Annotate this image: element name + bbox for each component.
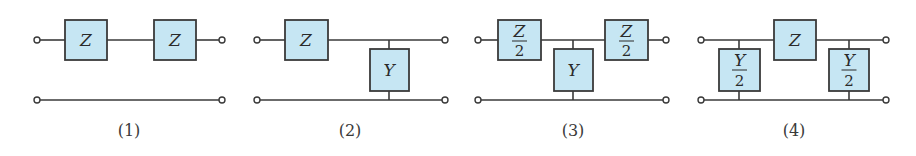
caption-2: (2) [339,121,362,140]
caption-3: (3) [562,121,585,140]
svg-text:2: 2 [735,72,745,90]
terminal-top-right [219,37,225,43]
admittance-box-y: Y [370,49,409,91]
svg-text:Z: Z [299,30,313,50]
circuit-4: Y 2 Z Y 2 (4) [698,20,889,140]
terminal-top-left [475,37,481,43]
svg-text:Z: Z [620,21,634,41]
impedance-box-z: Z [285,20,328,60]
terminal-top-left [698,37,704,43]
circuit-3: Z 2 Y Z 2 (3) [475,20,669,140]
terminal-bottom-right [883,97,889,103]
admittance-box-y: Y [554,49,593,91]
svg-text:2: 2 [844,72,854,90]
svg-text:Z: Z [168,30,182,50]
terminal-top-right [442,37,448,43]
impedance-box-z: Z [154,20,196,60]
terminal-bottom-right [442,97,448,103]
svg-text:2: 2 [622,42,632,60]
terminal-bottom-left [698,97,704,103]
circuit-2: Z Y (2) [254,20,448,140]
terminal-top-right [663,37,669,43]
impedance-box-z-half: Z 2 [605,20,648,60]
impedance-box-z: Z [774,20,816,60]
svg-text:Y: Y [383,60,396,80]
svg-text:Y: Y [843,50,856,70]
impedance-box-z: Z [65,20,107,60]
svg-text:Z: Z [788,30,802,50]
terminal-top-left [34,37,40,43]
caption-1: (1) [118,121,141,140]
svg-text:2: 2 [515,42,525,60]
admittance-box-y-half: Y 2 [719,49,760,91]
terminal-top-right [883,37,889,43]
circuit-1: Z Z (1) [34,20,225,140]
terminal-bottom-right [219,97,225,103]
svg-text:Y: Y [734,50,747,70]
circuit-figure: Z Z (1) Z Y (2) [0,0,916,156]
terminal-bottom-right [663,97,669,103]
impedance-box-z-half: Z 2 [498,20,541,60]
terminal-bottom-left [475,97,481,103]
terminal-top-left [254,37,260,43]
admittance-box-y-half: Y 2 [829,49,869,91]
svg-text:Z: Z [79,30,93,50]
caption-4: (4) [783,121,806,140]
terminal-bottom-left [34,97,40,103]
terminal-bottom-left [254,97,260,103]
svg-text:Y: Y [567,60,580,80]
svg-text:Z: Z [513,21,527,41]
